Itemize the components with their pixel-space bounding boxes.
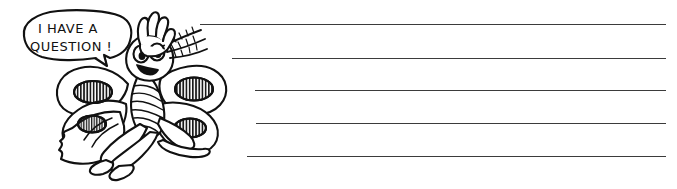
butterfly-illustration: I HAVE A QUESTION !: [0, 0, 677, 189]
speech-bubble-line-1: I HAVE A: [38, 21, 98, 36]
writing-line-4[interactable]: [256, 123, 666, 124]
writing-line-2[interactable]: [232, 58, 666, 59]
writing-line-3[interactable]: [255, 90, 666, 91]
speech-bubble: I HAVE A QUESTION !: [24, 10, 131, 66]
wing-spot-lower-left: [78, 116, 106, 133]
speech-bubble-line-2: QUESTION !: [30, 39, 112, 54]
wing-spot-upper-right: [175, 78, 213, 101]
writing-line-5[interactable]: [247, 156, 666, 157]
writing-line-1[interactable]: [200, 24, 666, 25]
wing-spot-upper-left: [74, 81, 112, 103]
worksheet-banner: I HAVE A QUESTION !: [0, 0, 677, 189]
